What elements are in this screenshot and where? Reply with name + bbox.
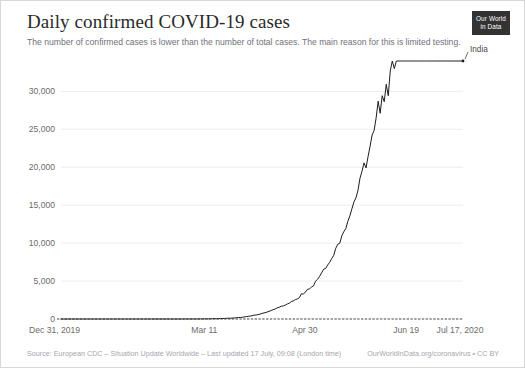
y-axis-tick-label: 15,000 [9,200,55,210]
chart-svg [1,1,525,368]
series-line-india [61,61,463,319]
x-axis-tick-label: Jun 19 [393,325,419,335]
series-label-connector [465,52,468,59]
series-endpoint-marker [462,60,465,63]
y-axis-tick-label: 10,000 [9,238,55,248]
series-end-label-india: India [470,45,488,54]
footer-credit-link[interactable]: OurWorldInData.org/coronavirus • CC BY [367,349,499,358]
x-axis-tick-label: Apr 30 [292,325,317,335]
footer-source-text: Source: European CDC – Situation Update … [27,349,341,358]
y-axis-tick-label: 20,000 [9,162,55,172]
plot-area: 05,00010,00015,00020,00025,00030,000 Dec… [1,1,525,368]
y-axis-tick-label: 5,000 [9,276,55,286]
gridlines [61,91,463,281]
x-axis-tick-label: Dec 31, 2019 [29,325,80,335]
chart-footer: Source: European CDC – Situation Update … [27,349,507,358]
y-axis-tick-label: 30,000 [9,86,55,96]
chart-screenshot: Daily confirmed COVID-19 cases The numbe… [0,0,525,368]
x-axis-tick-label: Jul 17, 2020 [437,325,484,335]
x-axis-tick-label: Mar 11 [191,325,217,335]
y-axis-tick-label: 0 [9,314,55,324]
y-axis-tick-label: 25,000 [9,124,55,134]
